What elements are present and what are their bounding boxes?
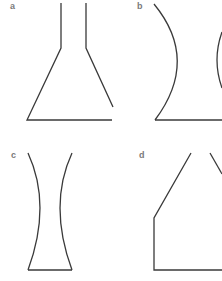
vessel-b (154, 4, 222, 120)
vessel-shapes-figure: a b c d (0, 0, 222, 281)
vessel-c (28, 153, 72, 270)
vessel-a (27, 3, 113, 120)
vessel-shapes-drawing (0, 0, 222, 281)
vessel-d (154, 153, 222, 270)
